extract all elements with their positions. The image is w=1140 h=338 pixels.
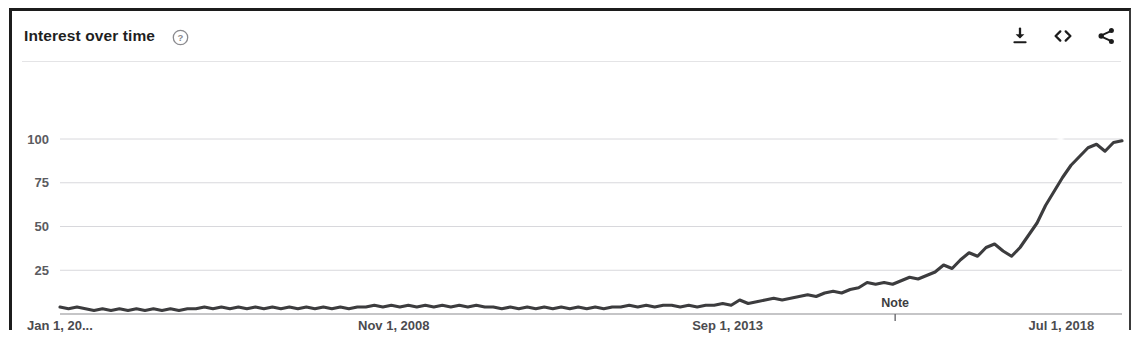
x-axis-tick-label: Sep 1, 2013: [692, 318, 763, 333]
chart-gridlines: [60, 139, 1122, 270]
embed-icon[interactable]: [1052, 25, 1074, 47]
x-axis-tick-label: Jan 1, 20...: [27, 318, 93, 333]
chart-x-axis-labels: Jan 1, 20...Nov 1, 2008Sep 1, 2013Jul 1,…: [27, 318, 1094, 333]
header-actions: [1009, 25, 1117, 47]
y-axis-tick-label: 25: [35, 263, 49, 278]
x-axis-tick-label: Jul 1, 2018: [1028, 318, 1094, 333]
screenshot-root: Interest over time ?: [0, 0, 1140, 338]
x-axis-tick-label: Nov 1, 2008: [358, 318, 430, 333]
note-annotation-label[interactable]: Note: [881, 296, 909, 310]
help-circle-icon[interactable]: ?: [172, 29, 189, 46]
y-axis-tick-label: 75: [35, 175, 49, 190]
y-axis-tick-label: 100: [27, 132, 49, 147]
chart-series-line: [60, 141, 1122, 311]
share-icon[interactable]: [1095, 25, 1117, 47]
card-header: Interest over time ?: [12, 11, 1129, 60]
page-title: Interest over time: [24, 27, 155, 45]
y-axis-tick-label: 50: [35, 219, 49, 234]
svg-text:?: ?: [178, 32, 184, 43]
chart-note-annotation: Note: [881, 296, 909, 321]
chart-y-axis-labels: 255075100: [27, 132, 49, 278]
interest-over-time-chart[interactable]: 255075100 Note Jan 1, 20...Nov 1, 2008Se…: [12, 62, 1131, 333]
interest-over-time-card: Interest over time ?: [9, 8, 1131, 330]
chart-plot-area: 255075100 Note Jan 1, 20...Nov 1, 2008Se…: [12, 62, 1129, 330]
download-icon[interactable]: [1009, 25, 1031, 47]
